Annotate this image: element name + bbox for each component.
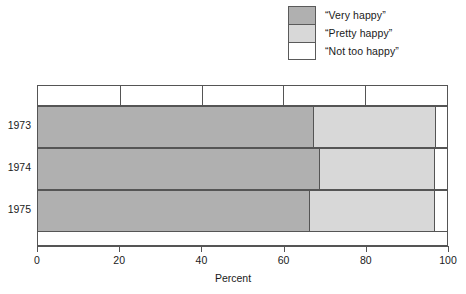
x-tick-label: 60 <box>278 254 290 266</box>
plot-area <box>37 85 448 246</box>
x-axis-tick <box>37 246 38 252</box>
legend-item-pretty-happy: “Pretty happy” <box>288 24 399 42</box>
legend-item-very-happy: “Very happy” <box>288 6 399 24</box>
plot-header-strip <box>38 86 447 106</box>
bar-segment <box>435 148 447 190</box>
bar-segment <box>314 106 435 148</box>
y-tick-label-1975: 1975 <box>0 203 31 215</box>
bar-segment <box>436 106 447 148</box>
y-tick-label-1973: 1973 <box>0 119 31 131</box>
bar-segment <box>38 106 314 148</box>
bar-row <box>38 190 447 232</box>
x-axis-tick <box>366 246 367 252</box>
bar-row <box>38 148 447 190</box>
legend-label-not-too-happy: “Not too happy” <box>325 45 399 57</box>
x-axis-tick <box>448 246 449 252</box>
bar-segment <box>310 190 434 232</box>
bars-area <box>38 106 447 246</box>
legend-item-not-too-happy: “Not too happy” <box>288 42 399 60</box>
chart-legend: “Very happy” “Pretty happy” “Not too hap… <box>288 6 399 60</box>
legend-label-pretty-happy: “Pretty happy” <box>325 27 392 39</box>
x-axis-line <box>37 246 448 247</box>
header-strip-divider <box>365 86 366 106</box>
x-axis-tick <box>284 246 285 252</box>
x-axis-tick <box>119 246 120 252</box>
bar-segment <box>38 148 320 190</box>
bar-segment <box>435 190 447 232</box>
bar-segment <box>38 190 310 232</box>
header-strip-divider <box>120 86 121 106</box>
y-axis-labels: 1973 1974 1975 <box>0 85 37 246</box>
x-axis-title: Percent <box>0 272 466 284</box>
pretty-happy-swatch <box>288 24 316 42</box>
x-tick-label: 0 <box>34 254 40 266</box>
y-tick-label-1974: 1974 <box>0 161 31 173</box>
very-happy-swatch <box>288 6 316 24</box>
bar-segment <box>320 148 435 190</box>
x-tick-label: 20 <box>113 254 125 266</box>
stacked-bar-chart: “Very happy” “Pretty happy” “Not too hap… <box>0 0 466 294</box>
x-axis-tick <box>201 246 202 252</box>
bar-row <box>38 106 447 148</box>
not-too-happy-swatch <box>288 42 316 60</box>
x-tick-label: 100 <box>439 254 457 266</box>
x-tick-label: 40 <box>196 254 208 266</box>
header-strip-divider <box>283 86 284 106</box>
legend-label-very-happy: “Very happy” <box>325 9 386 21</box>
x-tick-label: 80 <box>360 254 372 266</box>
header-strip-divider <box>202 86 203 106</box>
